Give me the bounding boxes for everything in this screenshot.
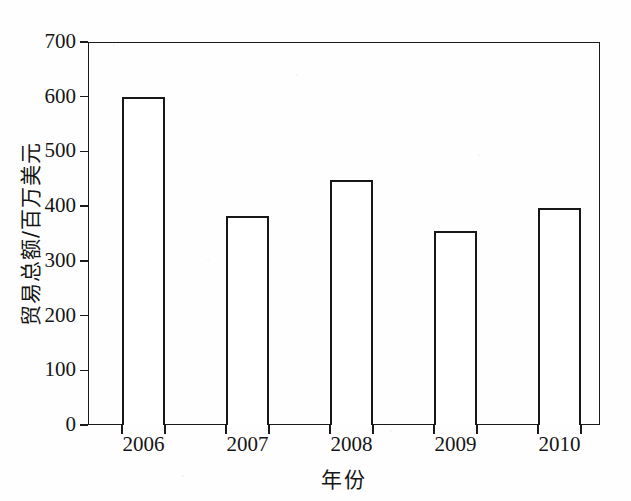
y-axis-ticks: 0100200300400500600700 xyxy=(0,0,88,501)
bar-2010 xyxy=(538,208,581,425)
y-axis-tick-mark xyxy=(80,96,88,97)
x-axis-tick-label-2007: 2007 xyxy=(227,432,269,456)
y-axis-tick-mark xyxy=(80,205,88,206)
y-axis-tick-label: 300 xyxy=(45,250,77,271)
y-axis-tick-mark xyxy=(80,260,88,261)
y-axis-tick-label: 200 xyxy=(45,305,77,326)
y-axis-tick-label: 700 xyxy=(45,31,77,52)
y-axis-tick-mark xyxy=(80,370,88,371)
x-axis-tick-label-2010: 2010 xyxy=(539,432,581,456)
bar-2007 xyxy=(226,216,269,425)
bar-2008 xyxy=(330,180,373,425)
y-axis-tick-mark xyxy=(80,41,88,42)
bar-2006 xyxy=(122,97,165,425)
y-axis-tick-label: 400 xyxy=(45,195,77,216)
x-axis-tick-labels: 20062007200820092010 xyxy=(88,432,600,462)
x-axis-tick-label-2006: 2006 xyxy=(123,432,165,456)
y-axis-tick-label: 500 xyxy=(45,140,77,161)
chart-figure: 贸易总额/百万美元 0100200300400500600700 2006200… xyxy=(0,0,631,501)
y-axis-tick-mark xyxy=(80,424,88,425)
y-axis-tick-mark xyxy=(80,315,88,316)
bar-series xyxy=(88,42,600,425)
y-axis-tick-mark xyxy=(80,151,88,152)
y-axis-tick-label: 0 xyxy=(66,414,77,435)
x-axis-tick-label-2009: 2009 xyxy=(435,432,477,456)
x-axis-title: 年份 xyxy=(88,463,600,493)
y-axis-tick-label: 100 xyxy=(45,359,77,380)
x-axis-tick-label-2008: 2008 xyxy=(331,432,373,456)
bar-2009 xyxy=(434,231,477,425)
y-axis-tick-label: 600 xyxy=(45,86,77,107)
